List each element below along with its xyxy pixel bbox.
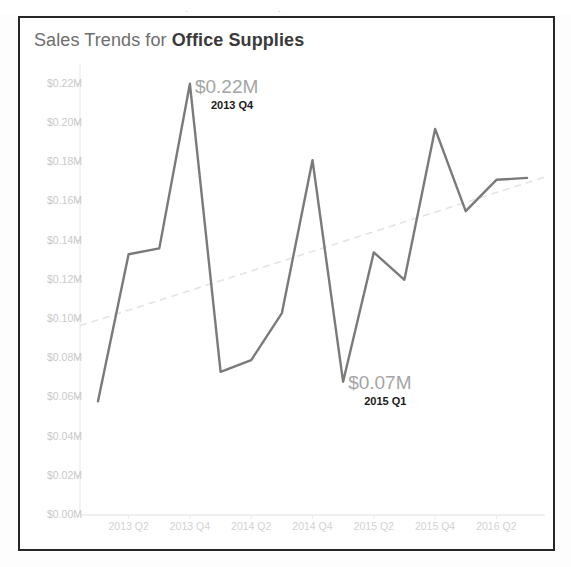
x-axis-tick-label: 2015 Q4 xyxy=(405,521,465,532)
sales-line-series[interactable] xyxy=(98,84,527,402)
y-axis-tick-label: $0.08M xyxy=(47,352,82,363)
cropped-text-fragment-left: . xyxy=(185,3,188,14)
x-axis-ticks xyxy=(129,515,497,519)
x-axis-tick-label: 2013 Q4 xyxy=(160,521,220,532)
y-axis-tick-label: $0.00M xyxy=(47,509,82,520)
annotation-max-value: $0.22M xyxy=(195,76,258,98)
cropped-text-fragment-right: . xyxy=(278,3,281,14)
visualization-card: Sales Trends for Office Supplies $0.22M$… xyxy=(18,16,555,551)
y-axis-tick-label: $0.02M xyxy=(47,470,82,481)
y-axis-tick-label: $0.18M xyxy=(47,156,82,167)
x-axis-tick-label: 2014 Q2 xyxy=(221,521,281,532)
cropped-text-sliver: . . xyxy=(0,0,571,14)
y-axis-tick-label: $0.12M xyxy=(47,274,82,285)
annotation-max-period: 2013 Q4 xyxy=(211,99,258,112)
x-axis-tick-label: 2015 Q2 xyxy=(344,521,404,532)
y-axis-tick-label: $0.20M xyxy=(47,117,82,128)
y-axis-tick-label: $0.10M xyxy=(47,313,82,324)
chart-canvas xyxy=(20,18,553,549)
plot-area: $0.22M$0.20M$0.18M$0.16M$0.14M$0.12M$0.1… xyxy=(20,18,553,549)
y-axis: $0.22M$0.20M$0.18M$0.16M$0.14M$0.12M$0.1… xyxy=(26,18,82,549)
y-axis-tick-label: $0.04M xyxy=(47,431,82,442)
annotation-max-point: $0.22M 2013 Q4 xyxy=(195,76,258,111)
x-axis-tick-label: 2014 Q4 xyxy=(283,521,343,532)
y-axis-tick-label: $0.22M xyxy=(47,78,82,89)
x-axis-tick-label: 2016 Q2 xyxy=(466,521,526,532)
annotation-min-period: 2015 Q1 xyxy=(364,395,411,408)
annotation-min-point: $0.07M 2015 Q1 xyxy=(348,372,411,407)
y-axis-tick-label: $0.16M xyxy=(47,195,82,206)
y-axis-tick-label: $0.14M xyxy=(47,235,82,246)
annotation-min-value: $0.07M xyxy=(348,372,411,394)
x-axis-tick-label: 2013 Q2 xyxy=(99,521,159,532)
y-axis-tick-label: $0.06M xyxy=(47,391,82,402)
